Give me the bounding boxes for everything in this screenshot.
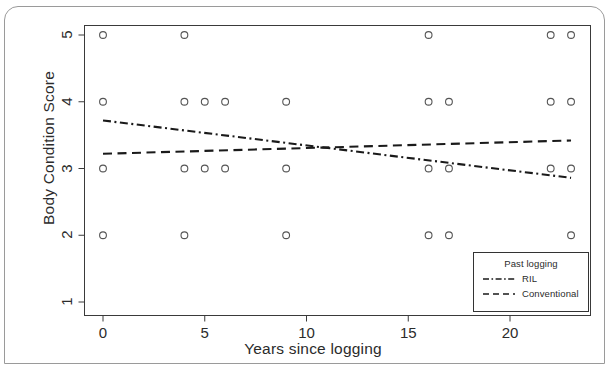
- data-point-marker: [547, 165, 554, 172]
- data-point-marker: [100, 165, 107, 172]
- data-point-marker: [446, 98, 453, 105]
- x-tick-label: 5: [190, 324, 220, 341]
- trend-line-ril: [103, 120, 571, 177]
- data-point-marker: [201, 98, 208, 105]
- data-point-marker: [201, 165, 208, 172]
- data-point-marker: [222, 98, 229, 105]
- data-point-marker: [425, 232, 432, 239]
- x-tick-label: 0: [88, 324, 118, 341]
- trend-line-conventional: [103, 140, 571, 153]
- y-tick-label: 3: [57, 159, 74, 177]
- data-point-marker: [181, 232, 188, 239]
- data-points: [100, 32, 575, 239]
- y-axis-ticks: [79, 35, 85, 302]
- data-point-marker: [425, 98, 432, 105]
- data-point-marker: [100, 232, 107, 239]
- data-point-marker: [568, 32, 575, 39]
- x-tick-label: 10: [292, 324, 322, 341]
- data-point-marker: [547, 32, 554, 39]
- data-point-marker: [446, 165, 453, 172]
- y-tick-label: 5: [57, 26, 74, 44]
- data-point-marker: [181, 32, 188, 39]
- data-point-marker: [547, 98, 554, 105]
- data-point-marker: [446, 232, 453, 239]
- y-tick-label: 1: [57, 293, 74, 311]
- y-axis-title: Body Condition Score: [40, 33, 58, 263]
- data-point-marker: [222, 165, 229, 172]
- data-point-marker: [283, 232, 290, 239]
- data-point-marker: [425, 165, 432, 172]
- legend-box: Past logging RIL Conventional: [473, 252, 589, 312]
- data-point-marker: [100, 32, 107, 39]
- data-point-marker: [568, 165, 575, 172]
- data-point-marker: [283, 165, 290, 172]
- legend-label-ril: RIL: [522, 273, 537, 284]
- legend-item-conventional: Conventional: [474, 288, 588, 299]
- legend-item-ril: RIL: [474, 273, 588, 284]
- x-tick-label: 20: [495, 324, 525, 341]
- data-point-marker: [425, 32, 432, 39]
- data-point-marker: [568, 98, 575, 105]
- data-point-marker: [181, 98, 188, 105]
- x-axis-title: Years since logging: [103, 340, 523, 358]
- legend-title: Past logging: [474, 258, 588, 269]
- trend-lines: [103, 120, 571, 177]
- legend-label-conventional: Conventional: [522, 288, 579, 299]
- data-point-marker: [568, 232, 575, 239]
- y-tick-label: 4: [57, 92, 74, 110]
- y-tick-label: 2: [57, 226, 74, 244]
- data-point-marker: [181, 165, 188, 172]
- scatter-chart: Body Condition Score Years since logging…: [0, 0, 609, 367]
- x-axis-ticks: [103, 316, 510, 322]
- legend-key-dashed-icon: [482, 289, 516, 299]
- data-point-marker: [100, 98, 107, 105]
- x-tick-label: 15: [393, 324, 423, 341]
- legend-key-dash-dot-icon: [482, 274, 516, 284]
- figure-page: Body Condition Score Years since logging…: [0, 0, 609, 367]
- data-point-marker: [283, 98, 290, 105]
